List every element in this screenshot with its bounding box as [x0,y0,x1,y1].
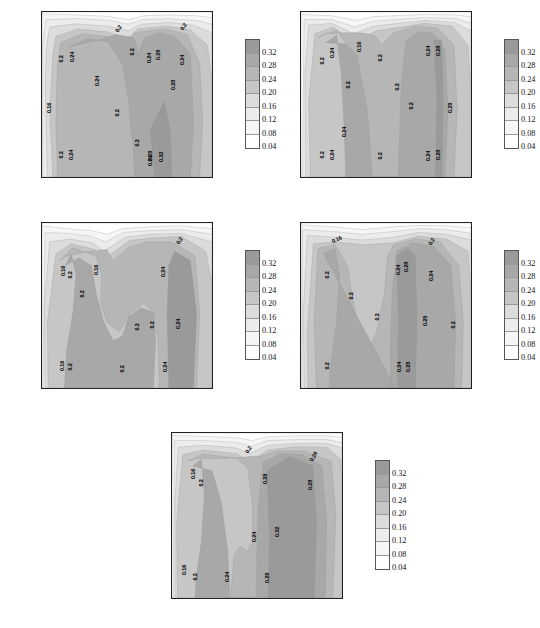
colorbar-tick-label: 0.04 [521,354,535,362]
colorbar-tick-label: 0.32 [521,48,535,56]
contour-label: 0.24 [163,362,169,372]
colorbar-swatch [246,332,259,346]
x-tick-mark [218,598,219,599]
y-tick-mark [41,153,42,154]
contour-label: 0.28 [437,46,443,56]
plot-area: -5-10-15-20-25-30-35-401234567891011120.… [171,432,343,599]
colorbar-swatch [246,135,259,149]
contour-label: 0.24 [161,267,167,277]
colorbar-swatch [246,278,259,292]
contour-label: 0.28 [404,262,410,272]
contour-label: 0.16 [192,468,198,478]
x-tick-mark [119,177,120,178]
x-tick-mark [471,177,472,178]
plot-area: -5-10-15-20-25-30-35-401234567891011120.… [300,11,472,178]
contour-label: 0.16 [357,42,363,52]
x-tick-mark [73,177,74,178]
colorbar-tick-label: 0.24 [392,496,406,504]
x-tick-mark [265,598,266,599]
colorbar-tick-label: 0.32 [392,469,406,477]
contour-label: 0.2 [320,57,326,64]
contour-label: 0.2 [59,151,65,158]
contour-label: 0.24 [426,151,432,161]
x-tick-mark [197,388,198,389]
x-tick-mark [311,598,312,599]
colorbar-tick-label: 0.24 [262,286,276,294]
colorbar-swatch [505,305,518,319]
x-tick-mark [332,388,333,389]
contour-label: 0.24 [148,156,154,166]
contour-label: 0.28 [437,150,443,160]
x-tick-mark [456,388,457,389]
x-tick-mark [172,598,173,599]
colorbar: 0.320.280.240.200.160.120.080.04 [504,250,540,358]
colorbar-swatch [505,135,518,149]
x-tick-mark [104,177,105,178]
y-tick-mark [41,294,42,295]
y-tick-mark [171,480,172,481]
colorbar-tick-label: 0.04 [262,354,276,362]
contour-label: 0.16 [61,266,67,276]
contour-label: 0.28 [406,362,412,372]
x-tick-mark [327,598,328,599]
contour-label: 0.2 [199,479,205,486]
contour-label: 0.24 [397,362,403,372]
contour-label: 0.2 [120,365,126,372]
colorbar-tick-label: 0.04 [521,143,535,151]
contour-label: 0.2 [193,574,199,581]
colorbar-tick-label: 0.16 [521,313,535,321]
contour-label: 0.2 [378,55,384,62]
x-tick-mark [301,388,302,389]
y-tick-mark [300,83,301,84]
y-tick-mark [300,59,301,60]
colorbar-swatch [505,292,518,306]
contour-label: 0.16 [47,103,53,113]
colorbar-swatch [505,94,518,108]
contour-label: 0.2 [150,321,156,328]
colorbar-tick-label: 0.08 [262,129,276,137]
y-tick-mark [41,177,42,178]
colorbar-tick-label: 0.08 [262,340,276,348]
contour-label: 0.2 [59,56,65,63]
colorbar-strip [245,250,260,360]
colorbar-swatch [505,121,518,135]
contour-label: 0.24 [176,319,182,329]
colorbar-strip [375,460,390,570]
contour-label: 0.24 [429,271,435,281]
x-tick-mark [425,388,426,389]
y-tick-mark [300,177,301,178]
contour-label: 0.2 [135,323,141,330]
colorbar-swatch [505,54,518,68]
x-tick-mark [119,388,120,389]
x-tick-mark [181,388,182,389]
colorbar-swatch [505,67,518,81]
colorbar-tick-label: 0.12 [392,537,406,545]
x-tick-mark [73,388,74,389]
colorbar-tick-label: 0.04 [262,143,276,151]
y-tick-mark [300,364,301,365]
colorbar-tick-label: 0.20 [521,300,535,308]
contour-label: 0.24 [95,76,101,86]
colorbar-tick-label: 0.16 [262,102,276,110]
contour-label: 0.2 [68,364,74,371]
y-tick-mark [300,130,301,131]
colorbar-swatch [376,475,389,489]
y-tick-mark [300,36,301,37]
y-tick-mark [171,433,172,434]
x-tick-mark [378,177,379,178]
colorbar-swatch [376,461,389,475]
colorbar-tick-label: 0.12 [262,327,276,335]
contour-label: 0.24 [252,532,258,542]
y-tick-mark [41,364,42,365]
contour-fill [301,12,471,177]
contour-label: 0.2 [321,152,327,159]
colorbar-swatch [505,251,518,265]
contour-label: 0.24 [342,127,348,137]
contour-label: 0.2 [409,103,415,110]
contour-label: 0.2 [349,292,355,299]
colorbar: 0.320.280.240.200.160.120.080.04 [245,39,305,147]
colorbar-tick-label: 0.24 [262,75,276,83]
colorbar-swatch [246,40,259,54]
plot-area: -5-10-15-20-25-30-35-401234567891011120.… [41,11,213,178]
contour-label: 0.24 [147,53,153,63]
